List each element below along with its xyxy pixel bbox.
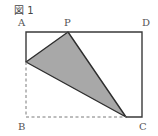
geometry-figure: 図 1 A P D B C bbox=[0, 0, 158, 136]
label-point-a: A bbox=[17, 17, 26, 28]
label-point-c: C bbox=[139, 121, 147, 132]
figure-caption: 図 1 bbox=[14, 5, 34, 16]
shaded-triangle bbox=[26, 32, 126, 117]
label-point-b: B bbox=[18, 121, 25, 132]
label-point-d: D bbox=[142, 17, 150, 28]
label-point-p: P bbox=[64, 17, 71, 28]
